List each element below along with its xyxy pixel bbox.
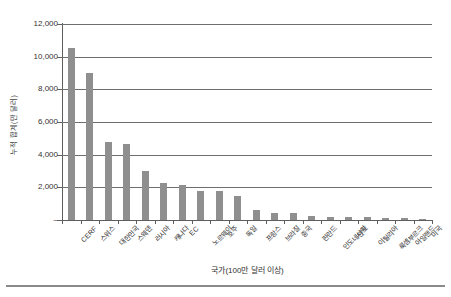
x-axis-category-label: 중국: [300, 225, 314, 239]
x-axis-category-label: 스위스: [98, 225, 116, 243]
x-axis-category-label: 이탈리아: [377, 225, 400, 248]
x-axis-category-label: 브라질: [283, 225, 301, 243]
x-axis-category-label: 프랑스: [265, 225, 283, 243]
x-axis-category-label: 러시아: [154, 225, 172, 243]
x-axis-category-label: CERF: [80, 225, 99, 244]
x-axis-category-label: 독일: [244, 225, 258, 239]
bar-chart-figure: 누적 합계(만 달러) 12,00010,0008,0006,0004,0002…: [0, 0, 451, 297]
x-axis-category-label: EC: [188, 225, 201, 238]
bottom-divider: [6, 285, 445, 287]
x-axis-category-label: 캐나다: [172, 225, 190, 243]
x-axis-title: 국가(100만 달러 이상): [62, 264, 433, 275]
x-axis-category-label: 핀란드: [320, 225, 338, 243]
x-axis-category-labels: CERF스위스대한민국스웨덴러시아캐나다EC노르웨이호주독일프랑스브라질중국핀란…: [0, 0, 451, 297]
